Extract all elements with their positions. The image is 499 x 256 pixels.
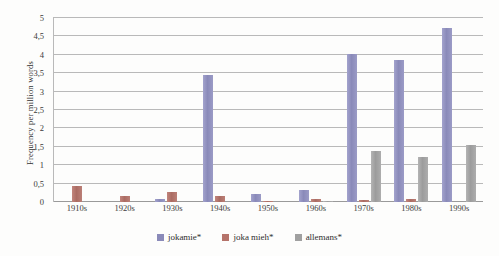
legend-label: jokamie* (168, 232, 202, 242)
y-axis-tick-label: 2,5 (33, 105, 44, 115)
legend-swatch-icon (222, 234, 229, 241)
bar[interactable] (167, 192, 177, 202)
x-axis-tick-label: 1920s (101, 203, 149, 219)
bar[interactable] (347, 54, 357, 202)
legend-label: joka mieh* (233, 232, 273, 242)
x-axis-tick-label: 1940s (196, 203, 244, 219)
y-axis-tick-label: 0 (40, 197, 44, 207)
bar[interactable] (215, 196, 225, 202)
chart-legend: jokamie*joka mieh*allemans* (0, 232, 499, 242)
y-axis-tick-label: 4,5 (33, 31, 44, 41)
x-axis-tick-label: 1970s (340, 203, 388, 219)
legend-item[interactable]: allemans* (295, 232, 343, 242)
x-axis-tick-label: 1990s (435, 203, 483, 219)
y-axis-tick-label: 4 (40, 50, 44, 60)
plot-area (53, 18, 483, 202)
y-axis-tick-label: 1,5 (33, 142, 44, 152)
x-axis-tick-label: 1930s (149, 203, 197, 219)
bar-groups (53, 18, 483, 202)
y-axis-tick-label: 3,5 (33, 68, 44, 78)
legend-item[interactable]: jokamie* (157, 232, 202, 242)
bar[interactable] (263, 201, 273, 202)
legend-swatch-icon (295, 234, 302, 241)
y-axis-tick-labels: 00,511,522,533,544,55 (0, 18, 50, 202)
bar-group (196, 18, 244, 202)
y-axis-tick-label: 1 (40, 160, 44, 170)
bar-group (292, 18, 340, 202)
x-axis-tick-label: 1910s (53, 203, 101, 219)
bar[interactable] (251, 194, 261, 202)
legend-label: allemans* (306, 232, 343, 242)
bar[interactable] (203, 75, 213, 202)
x-axis-tick-label: 1950s (244, 203, 292, 219)
bar-group (387, 18, 435, 202)
legend-item[interactable]: joka mieh* (222, 232, 273, 242)
bar-chart: Frequency per million words 00,511,522,5… (0, 0, 499, 256)
bar[interactable] (311, 199, 321, 202)
bar[interactable] (466, 145, 476, 202)
bar-group (340, 18, 388, 202)
x-axis-tick-labels: 1910s1920s1930s1940s1950s1960s1970s1980s… (53, 203, 483, 219)
bar-group (244, 18, 292, 202)
bar[interactable] (418, 157, 428, 202)
y-axis-tick-label: 3 (40, 87, 44, 97)
x-axis-tick-label: 1980s (387, 203, 435, 219)
bar[interactable] (394, 60, 404, 202)
bar-group (149, 18, 197, 202)
bar[interactable] (299, 190, 309, 202)
bar[interactable] (406, 199, 416, 202)
y-axis-tick-label: 0,5 (33, 179, 44, 189)
legend-swatch-icon (157, 234, 164, 241)
y-axis-tick-label: 2 (40, 123, 44, 133)
bar[interactable] (371, 151, 381, 202)
bar[interactable] (442, 28, 452, 202)
bar-group (53, 18, 101, 202)
x-axis-tick-label: 1960s (292, 203, 340, 219)
y-axis-tick-label: 5 (40, 13, 44, 23)
bar[interactable] (323, 201, 333, 202)
bar[interactable] (359, 200, 369, 202)
bar[interactable] (155, 199, 165, 202)
bar[interactable] (120, 196, 130, 202)
bar-group (435, 18, 483, 202)
bar-group (101, 18, 149, 202)
bar[interactable] (72, 186, 82, 202)
